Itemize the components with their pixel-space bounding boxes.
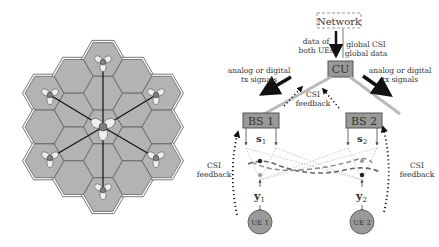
base-station-node [99, 123, 107, 131]
center-csi-label-1: CSI [306, 90, 320, 99]
center-csi-label-2: feedback [296, 99, 331, 108]
network-node: Network [317, 13, 362, 28]
data-label-1: data of [303, 37, 331, 46]
csi-arrow-ue1-bs1 [233, 132, 238, 215]
left-csi-label-2: feedback [197, 170, 232, 179]
global-data-label: global data [345, 49, 388, 58]
diagram-canvas: Network CU BS 1 BS 2 s1 s2 [0, 0, 439, 247]
channel-paths [246, 148, 377, 180]
ue2-label: UE 2 [353, 219, 371, 227]
bs1-node: BS 1 [243, 113, 279, 128]
base-station-node [100, 59, 106, 65]
global-csi-label: global CSI [346, 40, 386, 49]
s2-symbol: s2 [357, 133, 367, 146]
ue1-label: UE 1 [251, 219, 269, 227]
ue2-node: UE 2 [350, 210, 374, 234]
bs2-label: BS 2 [351, 115, 377, 128]
base-station-node [153, 155, 159, 161]
base-station-node [100, 187, 106, 193]
cu-node: CU [328, 61, 353, 77]
y2-symbol: y2 [355, 190, 367, 204]
bs2-node: BS 2 [346, 113, 382, 128]
ue1-node: UE 1 [248, 210, 272, 234]
bs1-label: BS 1 [248, 115, 274, 128]
right-csi-label-1: CSI [410, 161, 424, 170]
s1-symbol: s1 [256, 133, 266, 146]
left-csi-label-1: CSI [207, 161, 221, 170]
beam-ue1 [248, 161, 380, 173]
right-tx-label-1: analog or digital [369, 66, 432, 75]
left-tx-label-1: analog or digital [228, 66, 291, 75]
data-label-2: both UEs [298, 46, 333, 55]
right-csi-label-2: feedback [400, 170, 435, 179]
y1-symbol: y1 [253, 190, 265, 204]
left-tx-label-2: tx signals [241, 75, 277, 84]
right-tx-label-2: tx signals [382, 75, 418, 84]
base-station-node [47, 92, 53, 98]
base-station-node [153, 92, 159, 98]
base-station-node [47, 155, 53, 161]
cu-label: CU [332, 63, 350, 76]
csi-arrow-ue2-bs2 [383, 127, 389, 212]
network-label: Network [317, 16, 362, 27]
